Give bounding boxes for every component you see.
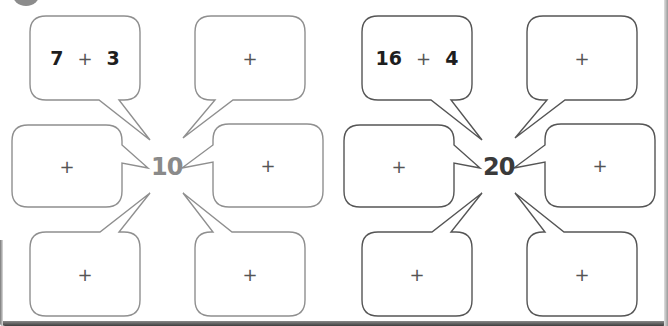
plus-operator: +	[260, 155, 275, 176]
plus-operator: +	[59, 156, 74, 177]
number-bond-entry[interactable]: +	[527, 16, 637, 100]
addend-left: 16	[376, 47, 402, 69]
number-bond-entry[interactable]: 7+3	[30, 16, 140, 100]
number-bond-entry[interactable]: 16+4	[362, 16, 472, 100]
plus-operator: +	[242, 264, 257, 285]
number-bond-entry[interactable]: +	[545, 124, 655, 207]
plus-operator: +	[592, 155, 607, 176]
number-bond-entry[interactable]: +	[12, 125, 122, 207]
plus-operator: +	[409, 264, 424, 285]
addend-right: 4	[445, 47, 458, 69]
plus-operator: +	[391, 156, 406, 177]
number-bond-entry[interactable]: +	[344, 125, 454, 207]
number-bond-entry[interactable]: +	[362, 232, 472, 316]
plus-operator: +	[574, 264, 589, 285]
plus-operator: +	[77, 264, 92, 285]
addend-left: 7	[50, 47, 63, 69]
plus-operator: +	[77, 48, 92, 69]
target-sum-10: 10	[151, 153, 182, 181]
addend-right: 3	[107, 47, 120, 69]
number-bond-entry[interactable]: +	[195, 16, 305, 100]
target-sum-20: 20	[483, 153, 514, 181]
number-bond-entry[interactable]: +	[30, 232, 140, 316]
plus-operator: +	[416, 48, 431, 69]
number-bond-entry[interactable]: +	[195, 232, 305, 316]
plus-operator: +	[574, 48, 589, 69]
number-bond-entry[interactable]: +	[527, 232, 637, 316]
plus-operator: +	[242, 48, 257, 69]
number-bond-entry[interactable]: +	[213, 124, 323, 207]
